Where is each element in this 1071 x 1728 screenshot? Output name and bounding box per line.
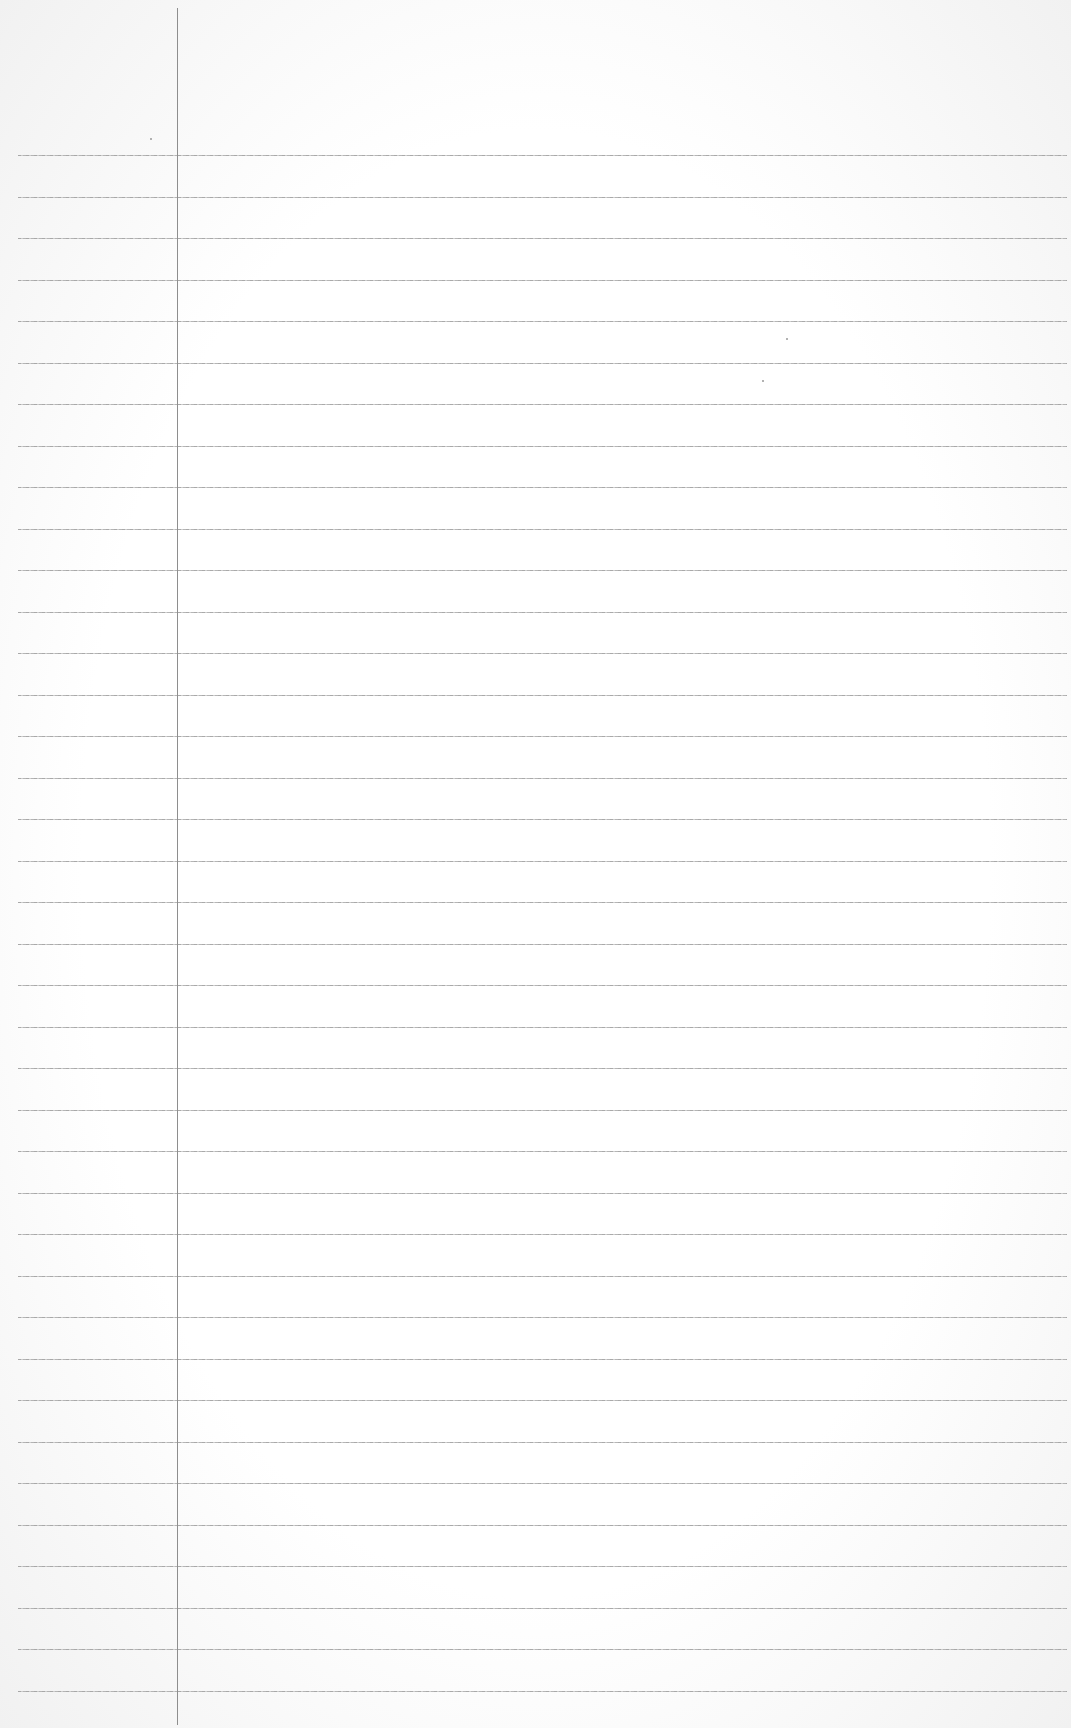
paper-speck: [150, 138, 152, 140]
paper-speck: [786, 338, 788, 340]
ruled-line: [18, 1359, 1067, 1360]
ruled-line: [18, 197, 1067, 198]
ruled-line: [18, 280, 1067, 281]
ruled-line: [18, 1068, 1067, 1069]
ruled-line: [18, 861, 1067, 862]
ruled-line: [18, 1400, 1067, 1401]
ruled-line: [18, 695, 1067, 696]
lined-paper-sheet: [0, 0, 1071, 1728]
ruled-line: [18, 1649, 1067, 1650]
ruled-line: [18, 1525, 1067, 1526]
margin-line: [177, 8, 178, 1725]
ruled-line: [18, 1234, 1067, 1235]
ruled-line: [18, 736, 1067, 737]
ruled-line: [18, 1566, 1067, 1567]
ruled-line: [18, 1483, 1067, 1484]
ruled-line: [18, 1027, 1067, 1028]
ruled-line: [18, 487, 1067, 488]
ruled-line: [18, 1608, 1067, 1609]
ruled-line: [18, 819, 1067, 820]
ruled-line: [18, 1317, 1067, 1318]
paper-speck: [762, 380, 764, 382]
ruled-line: [18, 778, 1067, 779]
ruled-line: [18, 1110, 1067, 1111]
ruled-line: [18, 1691, 1067, 1692]
ruled-line: [18, 321, 1067, 322]
ruled-line: [18, 570, 1067, 571]
ruled-line: [18, 1151, 1067, 1152]
ruled-line: [18, 155, 1067, 156]
ruled-line: [18, 446, 1067, 447]
ruled-line: [18, 1442, 1067, 1443]
ruled-line: [18, 529, 1067, 530]
ruled-line: [18, 612, 1067, 613]
ruled-line: [18, 1193, 1067, 1194]
ruled-line: [18, 1276, 1067, 1277]
ruled-line: [18, 944, 1067, 945]
ruled-line: [18, 653, 1067, 654]
ruled-line: [18, 404, 1067, 405]
ruled-line: [18, 238, 1067, 239]
ruled-line: [18, 985, 1067, 986]
ruled-line: [18, 363, 1067, 364]
ruled-line: [18, 902, 1067, 903]
